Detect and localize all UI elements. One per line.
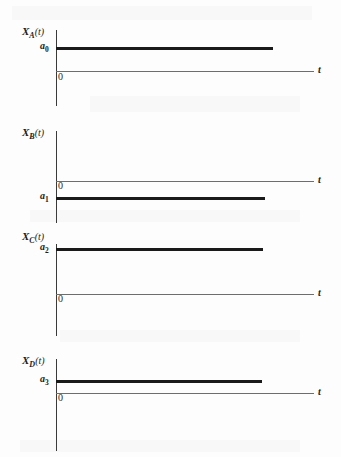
signal-name-arg: (t) xyxy=(35,26,44,37)
time-axis xyxy=(56,181,314,182)
amplitude-subscript: 1 xyxy=(45,195,49,204)
signal-trace xyxy=(56,197,265,200)
vertical-axis xyxy=(56,131,57,223)
origin-label: 0 xyxy=(58,293,63,304)
vertical-axis xyxy=(56,244,57,336)
amplitude-label: a1 xyxy=(40,190,49,204)
time-axis xyxy=(56,393,314,394)
amplitude-label: a3 xyxy=(40,373,49,387)
signal-name-label: XD(t) xyxy=(22,354,45,369)
panel-signal-b: XB(t) 0 a1 t xyxy=(0,113,341,228)
time-axis xyxy=(56,71,314,72)
panel-signal-d: XD(t) a3 0 t xyxy=(0,343,341,457)
time-axis-label: t xyxy=(318,287,321,298)
amplitude-subscript: 3 xyxy=(45,378,49,387)
signal-name-label: XB(t) xyxy=(22,126,44,141)
signal-trace xyxy=(56,248,263,251)
origin-label: 0 xyxy=(58,71,63,82)
signal-name-arg: (t) xyxy=(35,127,44,138)
signal-trace xyxy=(56,380,262,383)
figure-canvas: XA(t) a0 0 t XB(t) 0 a1 t XC(t) a2 0 xyxy=(0,0,341,457)
time-axis-label: t xyxy=(318,64,321,75)
time-axis xyxy=(56,294,314,295)
vertical-axis xyxy=(56,359,57,451)
signal-name-arg: (t) xyxy=(35,355,44,366)
amplitude-label: a0 xyxy=(40,40,49,54)
origin-label: 0 xyxy=(58,180,63,191)
signal-name-label: XA(t) xyxy=(22,25,44,40)
panel-signal-c: XC(t) a2 0 t xyxy=(0,228,341,343)
panel-signal-a: XA(t) a0 0 t xyxy=(0,0,341,115)
amplitude-subscript: 0 xyxy=(45,45,49,54)
time-axis-label: t xyxy=(318,174,321,185)
time-axis-label: t xyxy=(318,386,321,397)
origin-label: 0 xyxy=(58,392,63,403)
amplitude-label: a2 xyxy=(40,241,49,255)
amplitude-subscript: 2 xyxy=(45,246,49,255)
vertical-axis xyxy=(56,30,57,106)
signal-trace xyxy=(56,47,273,50)
